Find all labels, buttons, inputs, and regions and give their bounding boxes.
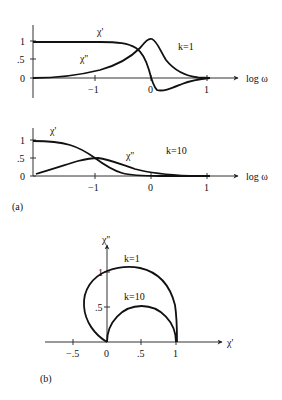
x-tick-1: 1 (173, 348, 178, 359)
y-tick-1: 1 (20, 36, 25, 47)
y-tick-0: 0 (20, 171, 25, 182)
x-tick-1: 1 (204, 84, 209, 95)
x-axis-label: log ω (246, 171, 268, 182)
y-axis-label: χ'' (101, 234, 110, 245)
x-tick-1: 1 (204, 182, 209, 193)
label-k1: k=1 (124, 253, 140, 264)
panel-label-a: (a) (12, 201, 23, 213)
label-k10: k=10 (166, 145, 187, 156)
y-tick-05: .5 (17, 54, 25, 65)
plot-cole-cole: 1 .5 −.5 0 .5 1 χ' χ'' k=1 k=10 (45, 234, 233, 359)
plot-mid-k10: 1 .5 0 −1 0 1 log ω χ' χ'' k=10 (17, 125, 268, 193)
panel-label-b: (b) (40, 373, 52, 385)
label-k10: k=10 (124, 291, 145, 302)
y-tick-1: 1 (20, 135, 25, 146)
label-chi-prime: χ' (96, 26, 103, 37)
figure: 1 .5 0 −1 0 1 log ω χ' χ'' k=1 1 .5 0 −1… (0, 0, 282, 400)
label-chi-double-prime: χ'' (79, 53, 88, 64)
x-tick-m05: −.5 (66, 348, 79, 359)
label-k1: k=1 (178, 41, 194, 52)
label-chi-double-prime: χ'' (125, 150, 134, 161)
x-tick-0: 0 (148, 182, 153, 193)
y-tick-05: .5 (95, 302, 103, 313)
x-axis-label: χ' (226, 337, 233, 348)
label-chi-prime: χ' (49, 125, 56, 136)
x-tick-0: 0 (104, 348, 109, 359)
x-tick-m1: −1 (88, 182, 99, 193)
x-tick-05: .5 (137, 348, 145, 359)
x-axis-label: log ω (246, 73, 268, 84)
x-tick-m1: −1 (88, 84, 99, 95)
curve-k10 (107, 306, 176, 342)
y-tick-05: .5 (17, 153, 25, 164)
y-tick-0: 0 (20, 73, 25, 84)
x-tick-0: 0 (148, 84, 153, 95)
plot-top-k1: 1 .5 0 −1 0 1 log ω χ' χ'' k=1 (17, 25, 268, 98)
